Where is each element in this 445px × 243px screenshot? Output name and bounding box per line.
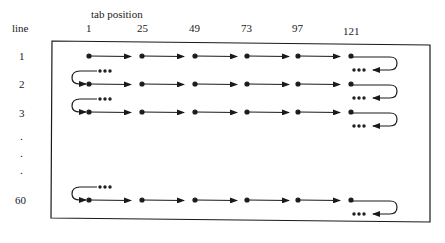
page-frame: [51, 41, 430, 222]
tab-flow-diagram: [0, 0, 445, 243]
